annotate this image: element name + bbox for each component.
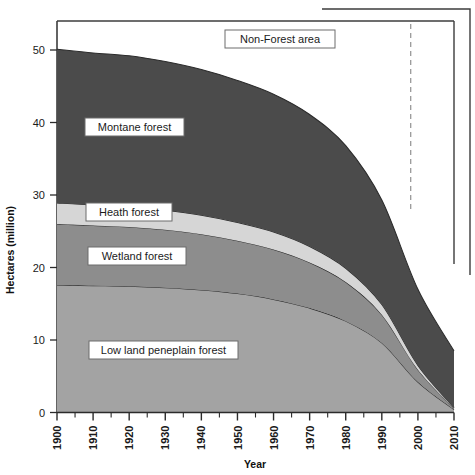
x-tick-label-1910: 1910 — [87, 426, 99, 450]
y-tick-label-10: 10 — [33, 334, 45, 346]
label-heath-text: Heath forest — [99, 206, 159, 218]
label-wetland-text: Wetland forest — [102, 250, 173, 262]
label-heath: Heath forest — [86, 203, 172, 221]
label-lowland-text: Low land peneplain forest — [101, 344, 226, 356]
y-tick-label-0: 0 — [39, 407, 45, 419]
x-tick-label-1980: 1980 — [340, 426, 352, 450]
x-tick-label-1950: 1950 — [232, 426, 244, 450]
y-axis-ticks — [50, 50, 57, 413]
label-non-forest: Non-Forest area — [225, 30, 335, 48]
x-tick-label-1940: 1940 — [195, 426, 207, 450]
x-axis-ticks — [57, 413, 454, 421]
x-axis-title: Year — [244, 458, 266, 470]
x-tick-label-1960: 1960 — [268, 426, 280, 450]
y-axis-title: Hectares (million) — [4, 206, 16, 294]
y-tick-label-40: 40 — [33, 117, 45, 129]
deforestation-area-chart: 01020304050 1900191019201930194019501960… — [0, 0, 475, 475]
x-tick-label-2010: 2010 — [448, 426, 460, 450]
label-montane-text: Montane forest — [98, 121, 171, 133]
x-tick-label-1990: 1990 — [376, 426, 388, 450]
y-tick-label-20: 20 — [33, 262, 45, 274]
y-axis-tick-labels: 01020304050 — [33, 44, 45, 419]
x-tick-label-2000: 2000 — [412, 426, 424, 450]
x-tick-label-1930: 1930 — [159, 426, 171, 450]
x-tick-label-1900: 1900 — [51, 426, 63, 450]
label-montane: Montane forest — [85, 118, 184, 136]
y-tick-label-50: 50 — [33, 44, 45, 56]
label-lowland: Low land peneplain forest — [89, 341, 238, 359]
label-non-forest-text: Non-Forest area — [240, 33, 321, 45]
label-wetland: Wetland forest — [88, 247, 186, 265]
x-tick-label-1920: 1920 — [123, 426, 135, 450]
y-tick-label-30: 30 — [33, 189, 45, 201]
x-tick-label-1970: 1970 — [304, 426, 316, 450]
x-axis-tick-labels: 1900191019201930194019501960197019801990… — [51, 426, 460, 450]
